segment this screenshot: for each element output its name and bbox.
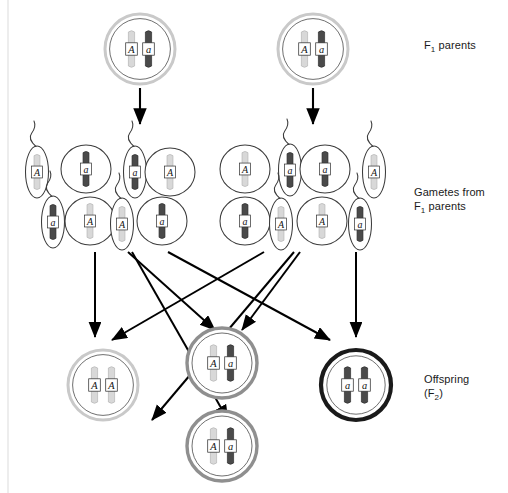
fert-arrow-4 xyxy=(168,252,330,340)
allele-letter: A xyxy=(209,441,217,452)
allele-letter: a xyxy=(228,441,233,452)
f1-parent-cells: AaAa xyxy=(105,14,348,84)
fert-arrow-5 xyxy=(112,252,264,340)
allele-letter: a xyxy=(358,219,363,230)
allele-letter: a xyxy=(319,44,324,55)
allele-letter: A xyxy=(118,219,126,230)
cell-parent-left xyxy=(105,14,175,84)
allele-letter: A xyxy=(370,167,378,178)
allele-letter: A xyxy=(33,167,41,178)
cell-offspring-Aa2 xyxy=(187,411,257,481)
allele-letter: A xyxy=(166,167,174,178)
gamete-cells: AaaAAaaAaAAaaAAa xyxy=(26,119,386,250)
allele-letter: A xyxy=(277,219,285,230)
cell-parent-right xyxy=(278,14,348,84)
diagram-canvas: AaAa AaaAAaaAaAAaaAAa AAAaaaAa xyxy=(0,0,508,493)
allele-letter: a xyxy=(228,358,233,369)
allele-letter: a xyxy=(84,164,89,175)
allele-letter: a xyxy=(288,165,293,176)
allele-letter: a xyxy=(345,380,350,391)
allele-letter: A xyxy=(86,216,94,227)
label-offspring-f2: Offspring(F2) xyxy=(424,372,469,400)
cell-offspring-AA xyxy=(68,350,138,420)
fert-arrow-2 xyxy=(128,252,215,330)
allele-letter: A xyxy=(209,358,217,369)
allele-letter: a xyxy=(323,164,328,175)
allele-letter: A xyxy=(241,164,249,175)
f2-offspring-cells: AAAaaaAa xyxy=(68,328,391,481)
allele-letter: a xyxy=(146,44,151,55)
allele-letter: A xyxy=(318,216,326,227)
cell-offspring-aa xyxy=(321,350,391,420)
allele-letter: a xyxy=(362,380,367,391)
allele-letter: a xyxy=(133,167,138,178)
allele-letter: A xyxy=(90,380,98,391)
cell-offspring-Aa1 xyxy=(187,328,257,398)
allele-letter: a xyxy=(160,216,165,227)
allele-letter: a xyxy=(51,217,56,228)
genetics-punnett-diagram: AaAa AaaAAaaAaAAaaAAa AAAaaaAa F1 parent… xyxy=(0,0,508,493)
label-f1-parents: F1 parents xyxy=(424,38,476,52)
label-gametes-from-f1-parents: Gametes fromF1 parents xyxy=(414,185,485,213)
allele-letter: A xyxy=(127,44,135,55)
allele-letter: A xyxy=(300,44,308,55)
allele-letter: a xyxy=(243,216,248,227)
allele-letter: A xyxy=(107,380,115,391)
